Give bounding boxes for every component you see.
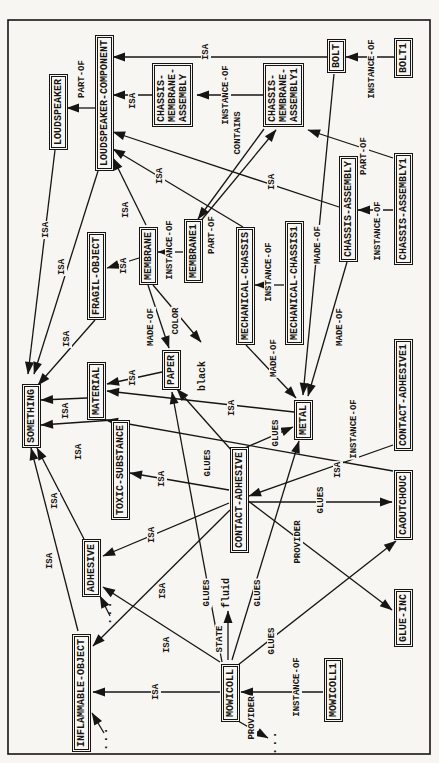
- edge-label-adhesive-isa: ISA: [50, 492, 60, 510]
- edge-label-mechanical-chassis-isa: ISA: [155, 167, 165, 185]
- edge-label-fragil-object-isa: ISA: [62, 330, 72, 348]
- edge-label-membrane-color: COLOR: [171, 306, 181, 335]
- edge-label-mowicoll-glues: GLUES: [202, 578, 212, 607]
- edge-label-mowicoll-glues: GLUES: [267, 626, 277, 655]
- edge-label-contact-adhesive-isa: ISA: [158, 582, 168, 600]
- edge-label-layer: INSTANCE-OFISAISAINSTANCE-OFISAISAISAPAR…: [0, 0, 439, 763]
- edge-label-chassis-assembly-isa: ISA: [267, 173, 277, 191]
- edge-label-inflammable-object-isa: ISA: [45, 552, 55, 570]
- edge-label-metal-isa: ISA: [227, 399, 237, 417]
- edge-label-mowicoll-isa: ISA: [162, 636, 172, 654]
- edge-label-loudspeaker-component-isa: ISA: [57, 258, 67, 276]
- edge-label-mowicoll-provider: PROVIDER: [247, 695, 257, 740]
- edge-label-bolt1-instance-of: INSTANCE-OF: [367, 38, 377, 99]
- edge-label-contact-adhesive-isa: ISA: [147, 526, 157, 544]
- edge-label-material-isa: ISA: [61, 402, 71, 420]
- edge-label-mowicoll-state: STATE: [215, 624, 225, 653]
- semantic-network-diagram: SOMETHINGLOUDSPEAKERLOUDSPEAKER-COMPONEN…: [0, 0, 439, 763]
- edge-label-membrane1-part-of: PART-OF: [207, 215, 217, 255]
- edge-label-mechanical-chassis-made-of: MADE-OF: [269, 338, 279, 378]
- edge-label-chassis-membrane-assembly1-instance-of: INSTANCE-OF: [221, 64, 231, 125]
- edge-label-contact-adhesive-isa: ISA: [157, 470, 167, 488]
- edge-label-toxic-substance-isa: ISA: [74, 443, 84, 461]
- edge-label-contact-adhesive-glues: GLUES: [271, 418, 281, 447]
- edge-label-loudspeaker-isa: ISA: [41, 221, 51, 239]
- edge-label-contact-adhesive-provider: PROVIDER: [293, 519, 303, 564]
- edge-label-mechanical-chassis1-instance-of: INSTANCE-OF: [264, 241, 274, 302]
- edge-label-chassis-membrane-assembly1-contains: CONTAINS: [233, 110, 243, 155]
- edge-label-paper-isa: ISA: [128, 369, 138, 387]
- edge-label-chassis-membrane-assembly-isa: ISA: [128, 92, 138, 110]
- edge-label-mowicoll1-instance-of: INSTANCE-OF: [292, 656, 302, 717]
- edge-label-mowicoll-isa: ISA: [151, 683, 161, 701]
- edge-label-membrane-isa: ISA: [119, 257, 129, 275]
- edge-label-chassis-assembly1-instance-of: INSTANCE-OF: [373, 200, 383, 261]
- edge-label-caoutchouc-isa: ISA: [333, 461, 343, 479]
- edge-label-bolt-made-of: MADE-OF: [313, 225, 323, 265]
- scanned-page: SOMETHINGLOUDSPEAKERLOUDSPEAKER-COMPONEN…: [0, 0, 439, 763]
- edge-label-membrane1-instance-of: INSTANCE-OF: [165, 219, 175, 280]
- edge-label-membrane-made-of: MADE-OF: [146, 307, 156, 347]
- edge-label-contact-adhesive-glues: GLUES: [316, 485, 326, 514]
- edge-label-chassis-assembly-made-of: MADE-OF: [335, 307, 345, 347]
- edge-label-mowicoll-glues: GLUES: [253, 578, 263, 607]
- edge-label-chassis-assembly1-part-of: PART-OF: [359, 136, 369, 176]
- edge-label-contact-adhesive-glues: GLUES: [203, 448, 213, 477]
- edge-label-membrane-isa: ISA: [121, 201, 131, 219]
- edge-label-contact-adhesive1-instance-of: INSTANCE-OF: [349, 398, 359, 459]
- edge-label-bolt-isa: ISA: [201, 43, 211, 61]
- edge-label-loudspeaker-component-part-of: PART-OF: [77, 59, 87, 99]
